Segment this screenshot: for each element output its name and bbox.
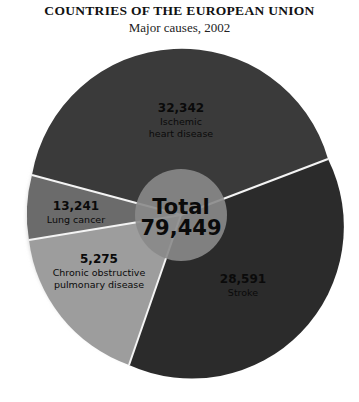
copd-label-1: Chronic obstructive xyxy=(53,267,146,278)
pie-chart: 32,342 Ischemic heart disease 28,591 Str… xyxy=(0,0,359,402)
lung-cancer-label: Lung cancer xyxy=(47,214,105,225)
total-value: 79,449 xyxy=(140,216,221,240)
copd-label-2: pulmonary disease xyxy=(54,279,144,290)
lung-cancer-value: 13,241 xyxy=(53,199,99,213)
ischemic-label-2: heart disease xyxy=(149,128,214,139)
stroke-value: 28,591 xyxy=(220,272,266,286)
ischemic-value: 32,342 xyxy=(158,101,204,115)
copd-value: 5,275 xyxy=(80,252,118,266)
ischemic-label-1: Ischemic xyxy=(160,116,202,127)
stroke-label: Stroke xyxy=(228,287,258,298)
